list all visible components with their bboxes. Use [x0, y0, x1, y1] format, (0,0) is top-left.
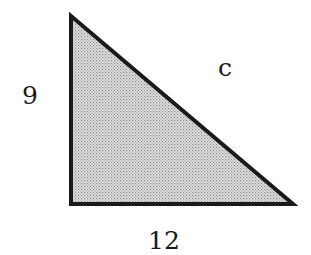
triangle-figure [0, 0, 311, 255]
right-triangle-diagram: 9 c 12 [0, 0, 311, 255]
hypotenuse-label: c [218, 55, 232, 80]
bottom-leg-label: 12 [148, 228, 180, 253]
left-leg-label: 9 [22, 83, 38, 108]
triangle-shape [71, 16, 293, 204]
